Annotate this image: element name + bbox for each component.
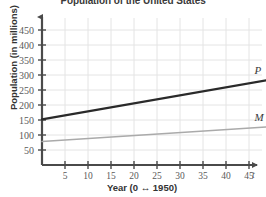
grid-horizontal [42,30,262,150]
y-tick-label: 350 [19,55,34,66]
x-axis-end-label: t [252,170,255,180]
series-label-m: M [253,111,264,123]
y-tick-label: 300 [19,70,34,81]
y-tick-label: 400 [19,40,34,51]
series-lines [42,80,266,142]
x-tick-label: 5 [63,171,68,181]
x-tick-label: 40 [221,171,231,181]
x-tick-label: 20 [129,171,139,181]
y-tick-label: 200 [19,100,34,111]
x-tick-label: 25 [152,171,162,181]
grid-vertical [65,18,249,165]
x-tick-label: 15 [106,171,116,181]
x-tick-label: 10 [83,171,93,181]
x-tick-label: 30 [175,171,185,181]
plot-area: 50100150200250300350400450 5101520253035… [0,0,266,197]
series-label-p: P [253,64,261,76]
chart-container: Population of the United States Populati… [0,0,266,197]
y-tick-label: 450 [19,25,34,36]
x-tick-label: 35 [198,171,208,181]
series-labels: PM [253,64,264,123]
series-line-m [42,127,266,142]
y-tick-label: 250 [19,85,34,96]
y-tick-label: 50 [24,145,34,156]
series-line-p [42,80,266,119]
y-tick-label: 150 [19,115,34,126]
y-tick-label: 100 [19,130,34,141]
